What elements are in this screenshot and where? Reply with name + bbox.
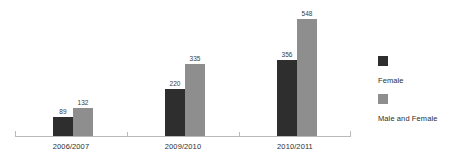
bar-rect-female[interactable]: [277, 60, 297, 136]
bar-male-and-female-2006-2007[interactable]: 132: [73, 98, 93, 136]
bar-value-label: 132: [77, 98, 88, 107]
bar-value-label: 548: [301, 9, 312, 18]
legend-item-female[interactable]: Female: [378, 56, 451, 87]
bar-rect-female[interactable]: [53, 117, 73, 136]
bar-group-bars: 89 132: [53, 98, 93, 136]
bar-female-2006-2007[interactable]: 89: [53, 107, 73, 136]
bar-group-bars: 220 335: [165, 54, 205, 136]
legend: Female Male and Female: [378, 56, 451, 132]
bar-female-2010-2011[interactable]: 356: [277, 50, 297, 136]
bar-male-and-female-2009-2010[interactable]: 335: [185, 54, 205, 136]
bar-rect-female[interactable]: [165, 89, 185, 136]
x-axis-separator-tick: [239, 132, 240, 137]
bar-rect-male-and-female[interactable]: [297, 19, 317, 136]
x-axis-separator-tick: [127, 132, 128, 137]
bar-male-and-female-2010-2011[interactable]: 548: [297, 9, 317, 136]
x-axis-label-2006-2007: 2006/2007: [15, 142, 127, 152]
bar-female-2009-2010[interactable]: 220: [165, 79, 185, 136]
x-axis-end-tick: [350, 131, 351, 137]
x-axis-label-2010-2011: 2010/2011: [239, 142, 351, 152]
bar-rect-male-and-female[interactable]: [73, 108, 93, 136]
bar-group-bars: 356 548: [277, 9, 317, 136]
x-axis-line: [15, 136, 351, 137]
bar-value-label: 220: [169, 79, 180, 88]
bar-value-label: 335: [189, 54, 200, 63]
x-axis-start-tick: [15, 131, 16, 137]
legend-item-male-and-female[interactable]: Male and Female: [378, 94, 451, 125]
legend-swatch-female-icon: [378, 56, 388, 66]
legend-swatch-male-and-female-icon: [378, 94, 388, 104]
legend-label-male-and-female: Male and Female: [378, 114, 437, 123]
bar-value-label: 89: [59, 107, 66, 116]
bar-rect-male-and-female[interactable]: [185, 64, 205, 136]
x-axis-label-2009-2010: 2009/2010: [127, 142, 239, 152]
bar-value-label: 356: [281, 50, 292, 59]
legend-label-female: Female: [378, 76, 404, 85]
bar-chart: 89 132 220 335: [0, 0, 451, 163]
plot-area: 89 132 220 335: [15, 6, 351, 136]
